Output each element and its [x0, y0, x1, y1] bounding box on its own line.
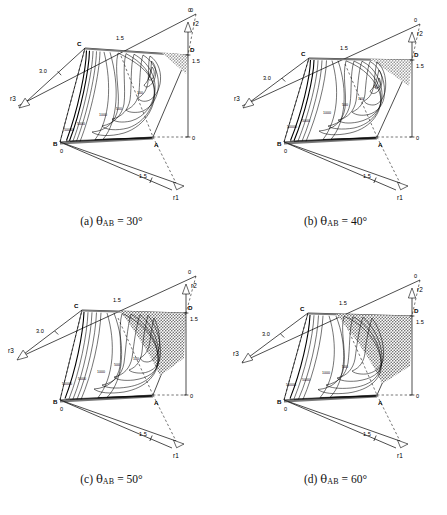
tick-r3: 3.0 — [262, 331, 270, 337]
contour-label: 500 — [342, 365, 348, 369]
tick-top-edge: 1.5 — [340, 45, 348, 51]
guide-rays-a — [18, 14, 196, 190]
contour-plot-b: 50000 5000 1000 500 100 50 r2 1.5 0 0 — [224, 0, 447, 215]
vertex-B: B — [53, 140, 58, 147]
contour-plot-d: 50000 5000 1000 500 r2 1.5 0 0 r1 1 — [224, 258, 447, 473]
tick-r2-upper: 1.5 — [416, 319, 424, 325]
caption-subscript: AB — [103, 477, 115, 486]
shaded-region-c — [120, 311, 186, 376]
panel-b: 50000 5000 1000 500 100 50 r2 1.5 0 0 — [224, 0, 447, 257]
contour-label: 500 — [116, 107, 122, 111]
axis-label-r3: r3 — [8, 347, 14, 354]
axis-r1-c: r1 1.5 — [60, 400, 184, 459]
axis-r3-d: r3 3.0 — [233, 313, 308, 363]
vertex-A: A — [378, 141, 383, 148]
tick-r2-lower: 0 — [416, 135, 419, 141]
caption-a: (a) θAB = 30° — [0, 214, 223, 228]
axis-label-r1: r1 — [173, 194, 179, 201]
caption-equals: = — [117, 473, 124, 485]
caption-subscript: AB — [327, 477, 339, 486]
tick-r2-upper: 1.5 — [416, 63, 424, 69]
contour-figure-grid: 50000 5000 1000 500 100 r2 1.5 0 0 r1 — [0, 0, 447, 515]
contour-label: 100 — [133, 357, 139, 361]
contour-label: 5000 — [302, 378, 310, 382]
contour-label: 100 — [137, 91, 143, 95]
contour-label: 5000 — [78, 377, 86, 381]
vertex-D: D — [188, 304, 193, 311]
tick-r2-lower: 0 — [190, 393, 193, 399]
axis-label-r3: r3 — [10, 95, 16, 102]
contour-plot-a: 50000 5000 1000 500 100 r2 1.5 0 0 r1 — [0, 0, 223, 215]
caption-subscript: AB — [327, 219, 339, 228]
tick-top-edge: 1.5 — [116, 35, 124, 41]
contour-plot-c: 50000 5000 1000 500 100 r2 1.5 0 0 r1 — [0, 258, 223, 473]
vertex-C: C — [74, 302, 79, 309]
tick-r2-upper: 1.5 — [190, 316, 198, 322]
contour-label: 50000 — [62, 382, 72, 386]
contour-label: 5000 — [77, 122, 85, 126]
caption-equals: = — [342, 473, 349, 485]
contour-label: 1000 — [323, 111, 331, 115]
tick-r1: 1.5 — [139, 173, 147, 179]
caption-index: (c) — [80, 473, 93, 485]
tick-r3: 3.0 — [263, 75, 271, 81]
guide-rays-b — [242, 24, 420, 190]
axis-r2-a: r2 1.5 0 0 — [184, 7, 199, 141]
contour-label: 50000 — [64, 128, 74, 132]
tick-origin-b: 0 — [284, 406, 287, 412]
caption-value: 50° — [127, 473, 143, 485]
caption-subscript: AB — [103, 219, 115, 228]
axis-label-r3: r3 — [233, 350, 239, 357]
axis-label-r3: r3 — [234, 95, 240, 102]
caption-symbol: θ — [96, 214, 103, 228]
caption-value: 30° — [127, 215, 143, 227]
contour-label: 50 — [374, 85, 378, 89]
axis-label-r1: r1 — [397, 194, 403, 201]
axis-label-r2: r2 — [417, 30, 423, 37]
tick-origin-b: 0 — [60, 406, 63, 412]
contour-label: 5000 — [302, 119, 310, 123]
tick-origin-b: 0 — [284, 148, 287, 154]
contour-label: 1000 — [97, 370, 105, 374]
axis-r1-b: r1 1.5 — [284, 142, 408, 201]
caption-index: (a) — [80, 215, 93, 227]
caption-c: (c) θAB = 50° — [0, 472, 223, 486]
vertex-D: D — [190, 46, 195, 53]
tick-r2-top: 0 — [188, 269, 191, 275]
axis-label-r2: r2 — [193, 20, 199, 27]
contour-lines-a — [66, 51, 161, 142]
tick-origin-top: 0 — [188, 7, 191, 13]
vertex-A: A — [154, 141, 159, 148]
caption-equals: = — [117, 215, 124, 227]
contour-lines-b — [290, 60, 386, 142]
vertex-D: D — [414, 307, 419, 314]
tick-r2-top: 0 — [414, 17, 417, 23]
tick-origin-b: 0 — [60, 148, 63, 154]
caption-equals: = — [342, 215, 349, 227]
caption-index: (d) — [304, 473, 317, 485]
axis-r1-a: r1 1.5 — [60, 142, 184, 201]
panel-a: 50000 5000 1000 500 100 r2 1.5 0 0 r1 — [0, 0, 223, 257]
tick-r2-lower: 0 — [416, 393, 419, 399]
tick-r3: 3.0 — [36, 328, 44, 334]
axis-r1-d: r1 1.5 — [284, 400, 408, 459]
contour-label: 1000 — [99, 113, 107, 117]
panel-d: 50000 5000 1000 500 r2 1.5 0 0 r1 1 — [224, 258, 447, 515]
tick-r1: 1.5 — [363, 173, 371, 179]
vertex-D: D — [414, 51, 419, 58]
tick-top-edge: 1.5 — [339, 300, 347, 306]
axis-r2-b: r2 1.5 0 0 — [408, 17, 423, 141]
contour-label: 50000 — [286, 383, 296, 387]
contour-label: 500 — [342, 103, 348, 107]
vertex-A: A — [378, 399, 383, 406]
tick-r1: 1.5 — [139, 431, 147, 437]
contour-label: 50000 — [287, 125, 297, 129]
tick-r1: 1.5 — [363, 431, 371, 437]
tick-r2-top: 0 — [414, 273, 417, 279]
contour-label: 500 — [114, 363, 120, 367]
panel-c: 50000 5000 1000 500 100 r2 1.5 0 0 r1 — [0, 258, 223, 515]
axis-r3-b: r3 3.0 — [234, 58, 309, 108]
vertex-C: C — [301, 50, 306, 57]
axis-r3-c: r3 3.0 — [8, 310, 82, 360]
tick-r2-lower: 0 — [192, 135, 195, 141]
